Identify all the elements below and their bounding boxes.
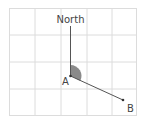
point-a-dot — [69, 75, 72, 78]
bearing-diagram: North A B — [0, 0, 143, 124]
point-b-label: B — [127, 103, 134, 114]
north-label: North — [57, 14, 85, 25]
point-b-dot — [122, 99, 125, 102]
point-a-label: A — [62, 76, 69, 87]
segment-a-b — [71, 76, 124, 100]
